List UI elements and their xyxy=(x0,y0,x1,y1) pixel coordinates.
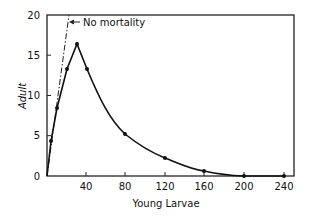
xtick-240: 240 xyxy=(274,181,293,192)
plot-frame xyxy=(47,15,294,176)
xtick-200: 200 xyxy=(234,181,253,192)
ytick-15: 15 xyxy=(27,50,40,61)
ytick-0: 0 xyxy=(34,171,40,182)
xtick-160: 160 xyxy=(194,181,213,192)
ytick-5: 5 xyxy=(34,130,40,141)
ytick-20: 20 xyxy=(27,10,40,21)
x-ticks: 40 80 120 160 200 240 xyxy=(80,172,294,192)
no-mortality-annotation: No mortality xyxy=(69,17,145,28)
x-axis-label: Young Larvae xyxy=(131,198,199,209)
xtick-40: 40 xyxy=(80,181,93,192)
y-axis-label: Adult xyxy=(17,82,28,110)
xtick-120: 120 xyxy=(155,181,174,192)
chart: 20 15 10 5 0 40 80 120 160 200 240 Young… xyxy=(0,0,315,217)
annotation-text: No mortality xyxy=(83,17,145,28)
xtick-80: 80 xyxy=(119,181,132,192)
ytick-10: 10 xyxy=(27,90,40,101)
